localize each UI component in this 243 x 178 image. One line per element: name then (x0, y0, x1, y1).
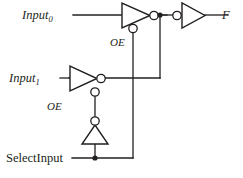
label-output-f: F (221, 8, 230, 22)
inverter-output-input-bubble (173, 11, 181, 19)
tristate-inverter-top-body (122, 3, 150, 28)
junction-output-node (157, 12, 162, 17)
label-input0-subscript: 0 (48, 14, 53, 24)
circuit-diagram: Input0 Input1 SelectInput F OE OE (0, 0, 243, 178)
circuit-svg: Input0 Input1 SelectInput F OE OE (0, 0, 243, 178)
inverter-select-body (82, 125, 108, 144)
tristate-inverter-top-output-bubble (150, 11, 158, 19)
junction-select-node (92, 155, 97, 160)
inverter-output-body (182, 3, 205, 28)
label-selectinput: SelectInput (6, 151, 63, 165)
label-input1: Input1 (8, 71, 40, 87)
inverter-select-output-bubble (91, 117, 99, 125)
inverter-select (82, 117, 108, 144)
label-oe-top: OE (110, 36, 125, 48)
label-input1-subscript: 1 (35, 77, 39, 87)
label-oe-mid: OE (47, 100, 62, 112)
tristate-inverter-mid-body (70, 66, 97, 91)
tristate-inverter-mid-enable-bubble (91, 88, 99, 96)
tristate-inverter-mid (70, 66, 105, 96)
label-input0: Input0 (21, 8, 53, 24)
tristate-inverter-top (122, 3, 158, 33)
label-input1-text: Input (8, 71, 36, 85)
label-input0-text: Input (21, 8, 49, 22)
tristate-inverter-mid-output-bubble (97, 74, 105, 82)
inverter-output (173, 3, 205, 28)
tristate-inverter-top-enable-bubble (129, 24, 137, 32)
